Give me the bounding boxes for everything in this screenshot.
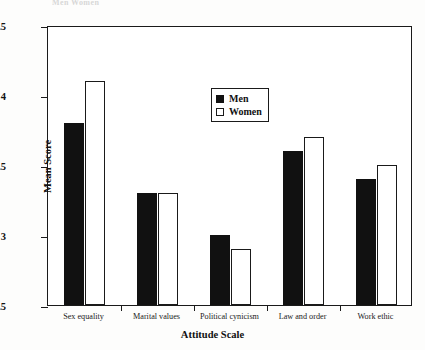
x-axis-tick	[121, 305, 122, 311]
legend: MenWomen	[211, 88, 269, 122]
x-axis-tick-label: Law and order	[279, 312, 327, 321]
x-axis-tick	[340, 305, 341, 311]
bar-women-4	[377, 165, 398, 305]
bar-men-3	[283, 151, 304, 305]
y-axis-tick	[41, 167, 48, 168]
plot-area: Mean Score MenWomen	[47, 26, 412, 306]
y-axis-tick-label: 4.5	[0, 21, 6, 32]
legend-label: Men	[229, 94, 248, 104]
y-axis-tick-label: 4	[1, 91, 6, 102]
bar-men-4	[356, 179, 377, 305]
y-axis-tick-label: 2.5	[0, 301, 6, 312]
legend-swatch-icon	[216, 95, 224, 103]
x-axis-tick-label: Work ethic	[358, 312, 394, 321]
bar-men-2	[210, 235, 231, 305]
faint-header-text: Men Women	[52, 0, 202, 9]
bar-women-3	[304, 137, 325, 305]
x-axis-tick-label: Political cynicism	[200, 312, 259, 321]
legend-item-women: Women	[216, 105, 262, 118]
x-axis-tick	[194, 305, 195, 311]
legend-label: Women	[229, 107, 262, 117]
x-axis-tick	[267, 305, 268, 311]
bar-women-0	[85, 81, 106, 305]
legend-swatch-icon	[216, 108, 224, 116]
y-axis-tick	[41, 237, 48, 238]
y-axis-tick-label: 3.5	[0, 161, 6, 172]
x-axis-tick-label: Marital values	[133, 312, 180, 321]
y-axis-tick	[41, 27, 48, 28]
bar-men-0	[64, 123, 85, 305]
x-axis-title: Attitude Scale	[0, 329, 425, 340]
bar-women-1	[158, 193, 179, 305]
chart-figure: Men Women Mean Score MenWomen 2.533.544.…	[0, 0, 425, 350]
legend-item-men: Men	[216, 92, 262, 105]
y-axis-tick	[41, 97, 48, 98]
bar-women-2	[231, 249, 252, 305]
y-axis-tick-label: 3	[1, 231, 6, 242]
x-axis-tick-label: Sex equality	[63, 312, 104, 321]
y-axis-tick	[41, 307, 48, 308]
bar-men-1	[137, 193, 158, 305]
